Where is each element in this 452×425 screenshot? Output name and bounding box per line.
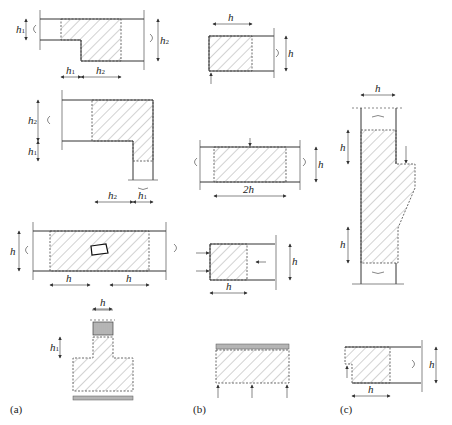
diagram-a1-stepped-beam: h1 h2 h1 h2	[16, 10, 170, 77]
diagram-b3-anchorage-zone: h h	[196, 235, 298, 293]
label-h: h	[100, 296, 106, 308]
panel-label-c: (c)	[340, 403, 353, 416]
label-h1: h1	[50, 341, 60, 353]
label-h: h	[292, 255, 298, 267]
label-h: h	[228, 11, 234, 23]
label-h: h	[126, 272, 132, 284]
label-h2: h2	[96, 64, 106, 76]
diagram-c2-dapped-end: h h (c)	[340, 340, 436, 416]
label-h: h	[340, 238, 346, 250]
label-h: h	[368, 383, 374, 395]
label-h1: h1	[66, 64, 76, 76]
label-h: h	[10, 245, 16, 257]
moment-arrow-icon	[276, 49, 279, 57]
panel-label-a: (a)	[10, 403, 23, 416]
moment-arrow-icon	[412, 360, 415, 368]
label-h2: h2	[108, 189, 118, 201]
label-h: h	[318, 158, 324, 170]
panel-label-b: (b)	[193, 403, 206, 416]
moment-arrow-icon	[372, 272, 384, 274]
diagram-b2-concentrated-load: h 2h	[195, 138, 325, 196]
label-h: h	[340, 141, 346, 153]
diagram-a2-frame-corner: h2 h1 h2 h1	[28, 90, 158, 202]
diagram-b1-end-region: h h	[209, 11, 294, 84]
label-h: h	[375, 82, 381, 94]
moment-arrow-icon	[372, 116, 384, 118]
opening-icon	[91, 244, 108, 255]
label-h: h	[429, 358, 435, 370]
diagram-a4-column-footing: h h1 (a)	[10, 296, 133, 416]
label-2h: 2h	[243, 183, 255, 195]
label-h2: h2	[160, 34, 170, 46]
d-region-diagram: h1 h2 h1 h2 h2 h1 h2 h1	[0, 0, 452, 425]
diagram-a3-beam-with-opening: h h h	[10, 222, 177, 285]
diagram-b4-deep-beam: (b)	[193, 344, 289, 416]
label-h1: h1	[28, 145, 38, 157]
label-h: h	[288, 47, 294, 59]
label-h: h	[226, 280, 232, 292]
moment-arrow-icon	[303, 158, 306, 166]
label-h: h	[66, 272, 72, 284]
moment-arrow-icon	[195, 158, 198, 166]
moment-arrow-icon	[174, 244, 177, 252]
diagram-c1-column-corbel: h h h	[340, 82, 415, 284]
moment-arrow-icon	[150, 34, 153, 42]
label-h1: h1	[138, 189, 148, 201]
moment-arrow-icon	[34, 25, 37, 33]
moment-arrow-icon	[48, 116, 51, 124]
label-h1: h1	[16, 23, 26, 35]
label-h2: h2	[28, 114, 38, 126]
moment-arrow-icon	[26, 246, 29, 254]
